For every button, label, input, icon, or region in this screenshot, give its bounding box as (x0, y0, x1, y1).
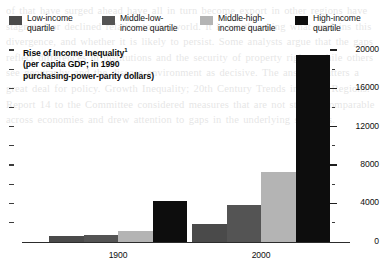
x-tick-label-2000: 2000 (236, 250, 286, 260)
x-axis-labels: 19002000 (0, 0, 385, 280)
chart-figure: Low-income quartile Middle-low- income q… (0, 0, 385, 280)
x-tick-label-1900: 1900 (93, 250, 143, 260)
